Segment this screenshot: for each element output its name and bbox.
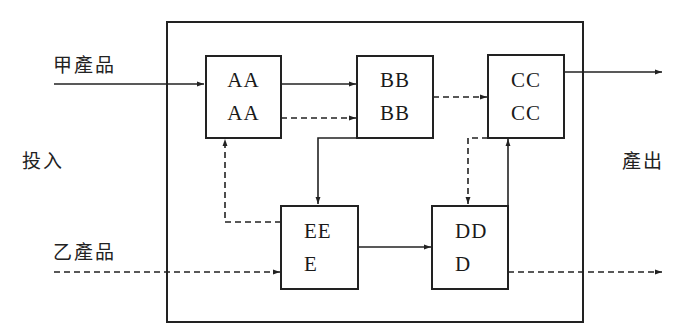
node-bb-line-1: BB (380, 64, 410, 97)
node-bb-line-2: BB (380, 97, 410, 130)
input-side-label: 投入 (22, 152, 64, 171)
node-dd-line-1: DD (455, 215, 487, 248)
edge-cc-to-dd (468, 138, 488, 204)
node-bb: BB BB (356, 55, 434, 139)
node-aa: AA AA (205, 55, 282, 139)
node-ee: EE E (280, 205, 359, 290)
node-dd: DD D (431, 205, 509, 290)
node-ee-line-1: EE (304, 215, 332, 248)
node-aa-line-2: AA (227, 97, 259, 130)
edge-ee-to-aa (225, 139, 281, 222)
node-cc: CC CC (487, 54, 565, 139)
node-cc-line-2: CC (511, 97, 541, 130)
product-a-label: 甲產品 (53, 56, 116, 75)
edge-bb-to-ee (318, 138, 357, 204)
product-b-label: 乙產品 (53, 243, 116, 262)
node-cc-line-1: CC (511, 64, 541, 97)
node-ee-line-2: E (304, 248, 318, 281)
node-aa-line-1: AA (227, 64, 259, 97)
output-side-label: 產出 (622, 152, 664, 171)
node-dd-line-2: D (455, 248, 471, 281)
